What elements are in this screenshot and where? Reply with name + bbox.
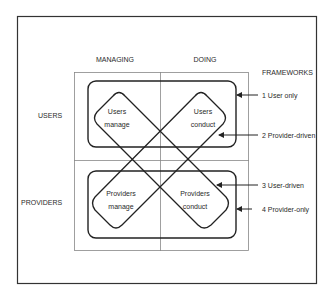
framework-label-3: 3 User-driven	[262, 182, 304, 189]
cell-users-manage-line1: Users	[108, 108, 127, 115]
row-header-providers: PROVIDERS	[21, 199, 63, 206]
column-header-doing: DOING	[194, 56, 217, 63]
framework-label-2: 2 Provider-driven	[262, 132, 315, 139]
framework-label-1: 1 User only	[262, 92, 298, 100]
cell-users-conduct-line1: Users	[194, 108, 213, 115]
outer-frame	[18, 17, 317, 284]
frameworks-title: FRAMEWORKS	[262, 69, 313, 76]
cell-providers-conduct-line1: Providers	[180, 190, 210, 197]
cell-providers-manage-line2: manage	[108, 203, 133, 211]
grid-border	[75, 73, 249, 251]
framework-label-4: 4 Provider-only	[262, 206, 310, 214]
column-header-managing: MANAGING	[96, 56, 134, 63]
cell-providers-conduct-line2: conduct	[183, 203, 208, 210]
cell-users-manage-line2: manage	[104, 121, 129, 129]
frameworks-diagram: MANAGING DOING USERS PROVIDERS FRAMEWORK…	[0, 0, 331, 298]
row-header-users: USERS	[38, 112, 62, 119]
cell-users-conduct-line2: conduct	[191, 121, 216, 128]
cell-providers-manage-line1: Providers	[106, 190, 136, 197]
